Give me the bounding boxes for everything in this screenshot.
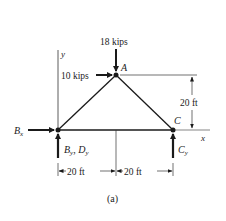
member-AB (58, 75, 116, 130)
load-10-kips-label: 10 kips (61, 71, 89, 81)
figure-caption: (a) (107, 193, 118, 205)
dim-left-span-label: 20 ft (67, 167, 85, 177)
node-C-label: C (174, 115, 181, 126)
reaction-Bx-label: Bx (14, 125, 24, 138)
y-axis-label: y (60, 49, 65, 59)
x-axis-label: x (200, 133, 205, 143)
reaction-Cy-label: Cy (178, 144, 189, 157)
reaction-By-Dy-label: By, Dy (64, 144, 89, 157)
dim-right-span-label: 20 ft (124, 167, 142, 177)
node-A-label: A (120, 62, 128, 73)
node-C (171, 128, 176, 133)
truss-diagram: y x A C 18 kips 10 kips Bx By, Dy Cy 20 … (0, 0, 226, 221)
member-AC (116, 75, 173, 130)
node-A (114, 73, 119, 78)
load-18-kips-label: 18 kips (100, 37, 128, 47)
dim-height-label: 20 ft (180, 98, 198, 108)
node-B (56, 128, 61, 133)
